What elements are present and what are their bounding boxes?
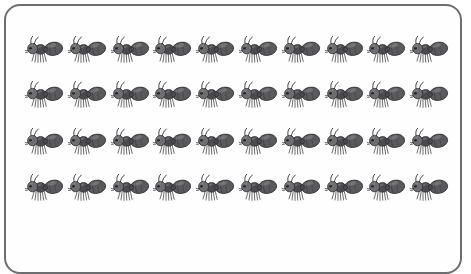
ant-icon [407,30,450,74]
ant-row [22,75,450,119]
ant-icon [236,168,279,212]
ant-row [22,168,450,212]
ant-icon [407,122,450,166]
ant-icon [193,75,236,119]
ant-icon [22,75,65,119]
ant-icon [108,168,151,212]
ant-icon [22,168,65,212]
ant-icon [108,75,151,119]
ant-icon [65,122,108,166]
ant-icon [236,122,279,166]
ant-icon [65,168,108,212]
ant-icon [65,30,108,74]
ant-icon [279,75,322,119]
ant-icon [279,122,322,166]
ant-icon [193,30,236,74]
ant-icon [150,122,193,166]
ant-icon [150,30,193,74]
ant-icon [193,122,236,166]
ant-icon [22,30,65,74]
ant-icon [364,30,407,74]
ant-icon [108,122,151,166]
ant-icon [407,75,450,119]
ant-icon [407,168,450,212]
ant-row [22,30,450,74]
ant-icon [364,75,407,119]
ant-icon [236,30,279,74]
ant-icon [279,168,322,212]
ant-icon [193,168,236,212]
ant-icon [364,168,407,212]
ant-icon [108,30,151,74]
ant-icon [65,75,108,119]
ant-icon [150,168,193,212]
ant-icon [322,168,365,212]
ant-icon [236,75,279,119]
ant-icon [150,75,193,119]
ant-icon [322,30,365,74]
ant-icon [322,75,365,119]
ant-row [22,122,450,166]
ant-icon [364,122,407,166]
ant-icon [322,122,365,166]
ant-icon [22,122,65,166]
ant-icon [279,30,322,74]
